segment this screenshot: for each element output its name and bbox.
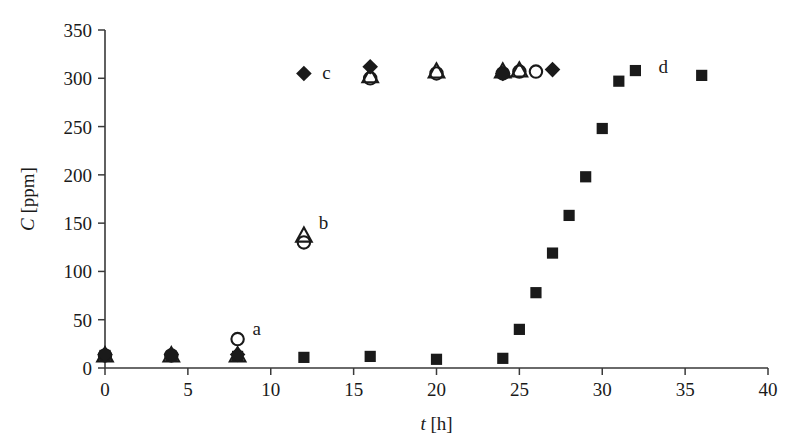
data-markers-layer — [97, 59, 707, 365]
y-tick-label: 350 — [64, 20, 93, 41]
x-tick-label: 20 — [427, 379, 446, 400]
chart-figure: 0510152025303540 050100150200250300350 a… — [0, 0, 805, 446]
marker-filled-square — [580, 171, 591, 182]
y-axis-title: C [ppm] — [17, 167, 38, 231]
y-tick-label: 200 — [64, 165, 93, 186]
x-tick-label: 25 — [510, 379, 529, 400]
axes-group: 0510152025303540 050100150200250300350 — [64, 20, 778, 400]
marker-open-triangle — [296, 227, 312, 241]
annotation-a: a — [253, 318, 262, 339]
scatter-plot: 0510152025303540 050100150200250300350 a… — [0, 0, 805, 446]
y-axis-ticks: 050100150200250300350 — [64, 20, 106, 379]
annotation-d: d — [659, 56, 669, 77]
marker-filled-square — [365, 351, 376, 362]
y-tick-label: 250 — [64, 117, 93, 138]
annotation-b: b — [319, 212, 329, 233]
marker-filled-square — [613, 76, 624, 87]
series-annotations-layer: abcd — [253, 56, 669, 340]
marker-filled-square — [696, 70, 707, 81]
marker-filled-diamond — [362, 59, 378, 75]
marker-filled-square — [298, 352, 309, 363]
x-tick-label: 5 — [183, 379, 193, 400]
marker-filled-diamond — [296, 66, 312, 82]
x-tick-label: 40 — [759, 379, 778, 400]
marker-filled-square — [514, 324, 525, 335]
x-tick-label: 15 — [344, 379, 363, 400]
marker-filled-square — [630, 65, 641, 76]
marker-filled-square — [564, 210, 575, 221]
series-d — [99, 65, 707, 365]
marker-filled-square — [530, 287, 541, 298]
series-b — [97, 62, 527, 361]
series-c — [97, 59, 560, 362]
marker-filled-diamond — [495, 66, 511, 82]
x-tick-label: 35 — [676, 379, 695, 400]
y-tick-label: 300 — [64, 68, 93, 89]
x-tick-label: 0 — [100, 379, 110, 400]
marker-filled-diamond — [545, 62, 561, 78]
marker-open-circle — [231, 333, 243, 345]
marker-filled-square — [597, 123, 608, 134]
y-tick-label: 0 — [83, 358, 93, 379]
marker-filled-square — [431, 354, 442, 365]
x-axis-ticks: 0510152025303540 — [100, 368, 777, 400]
x-tick-label: 10 — [261, 379, 280, 400]
x-axis-title: t [h] — [420, 413, 452, 434]
x-tick-label: 30 — [593, 379, 612, 400]
marker-filled-square — [497, 353, 508, 364]
y-tick-label: 150 — [64, 213, 93, 234]
marker-open-circle — [530, 65, 542, 77]
axis-titles-layer: t [h]C [ppm] — [17, 167, 453, 434]
y-tick-label: 100 — [64, 261, 93, 282]
annotation-c: c — [322, 62, 330, 83]
y-tick-label: 50 — [73, 310, 92, 331]
marker-filled-square — [547, 247, 558, 258]
